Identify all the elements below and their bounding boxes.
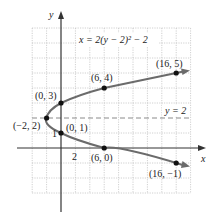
- tick-label-x-2: 2: [72, 151, 77, 162]
- equation-label: x = 2(y − 2)² − 2: [78, 34, 148, 46]
- point-0-1: [58, 130, 63, 135]
- curve-arrow-top-icon: [181, 69, 190, 76]
- y-axis-label: y: [48, 9, 54, 20]
- point-6-4: [102, 85, 107, 90]
- symmetry-line-label: y = 2: [164, 105, 186, 116]
- point-0-3: [58, 100, 63, 105]
- label-6-0: (6, 0): [91, 152, 113, 164]
- label-0-1: (0, 1): [66, 122, 88, 134]
- label-16-m1: (16, −1): [149, 168, 181, 180]
- label-16-5: (16, 5): [156, 58, 183, 70]
- x-axis-label: x: [200, 153, 206, 164]
- tick-label-y-1: 1: [52, 128, 57, 139]
- label-m2-2: (−2, 2): [13, 120, 40, 132]
- point-6-0: [102, 145, 107, 150]
- y-axis-arrow-icon: [58, 11, 64, 19]
- parabola-chart: x = 2(y − 2)² − 2 y x 2 1 y = 2 (16, 5) …: [0, 0, 218, 217]
- point-16-m1: [174, 160, 179, 165]
- label-6-4: (6, 4): [91, 72, 113, 84]
- x-axis-arrow-icon: [198, 145, 206, 151]
- curve-arrow-bottom-icon: [181, 161, 190, 168]
- point-16-5: [174, 70, 179, 75]
- label-0-3: (0, 3): [35, 90, 57, 102]
- point-m2-2: [44, 115, 49, 120]
